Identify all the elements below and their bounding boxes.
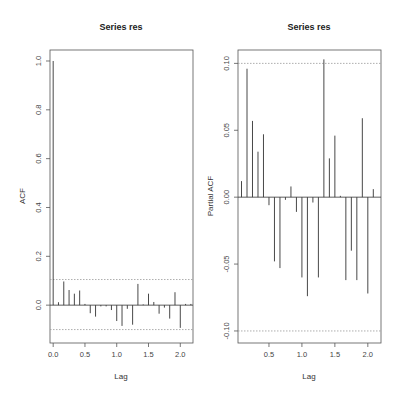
y-tick-label: 0.4 xyxy=(34,202,43,212)
plot-svg: Series res 0.00.20.40.60.81.0 0.00.51.01… xyxy=(0,0,402,404)
x-tick-label: 1.0 xyxy=(112,350,122,359)
acf-y-axis: 0.00.20.40.60.81.0 xyxy=(34,56,50,311)
pacf-ylabel: Partial ACF xyxy=(206,176,215,217)
y-tick-label: 0.00 xyxy=(222,190,231,205)
acf-pacf-figure: Series res 0.00.20.40.60.81.0 0.00.51.01… xyxy=(0,0,402,404)
pacf-x-axis: 0.51.01.52.0 xyxy=(264,343,373,359)
acf-frame xyxy=(50,50,193,343)
x-tick-label: 0.5 xyxy=(80,350,90,359)
acf-x-axis: 0.00.51.01.52.0 xyxy=(48,343,186,359)
pacf-xlabel: Lag xyxy=(302,372,315,381)
y-tick-label: 0.6 xyxy=(34,153,43,163)
y-tick-label: 1.0 xyxy=(34,56,43,66)
x-tick-label: 1.0 xyxy=(297,350,307,359)
pacf-panel: Series res -0.10-0.050.000.050.10 0.51.0… xyxy=(206,22,381,381)
y-tick-label: -0.05 xyxy=(222,256,231,273)
y-tick-label: 0.10 xyxy=(222,56,231,71)
y-tick-label: 0.0 xyxy=(34,300,43,310)
x-tick-label: 2.0 xyxy=(363,350,373,359)
acf-ylabel: ACF xyxy=(18,188,27,204)
acf-panel: Series res 0.00.20.40.60.81.0 0.00.51.01… xyxy=(18,22,193,381)
x-tick-label: 1.5 xyxy=(330,350,340,359)
x-tick-label: 0.5 xyxy=(264,350,274,359)
y-tick-label: -0.10 xyxy=(222,322,231,339)
pacf-frame xyxy=(238,50,381,343)
pacf-y-axis: -0.10-0.050.000.050.10 xyxy=(222,56,238,339)
acf-xlabel: Lag xyxy=(114,372,127,381)
y-tick-label: 0.2 xyxy=(34,251,43,261)
y-tick-label: 0.8 xyxy=(34,105,43,115)
y-tick-label: 0.05 xyxy=(222,123,231,138)
x-tick-label: 2.0 xyxy=(175,350,185,359)
pacf-title: Series res xyxy=(287,22,330,32)
acf-stems xyxy=(53,61,191,328)
acf-title: Series res xyxy=(99,22,142,32)
pacf-stems xyxy=(242,59,374,296)
x-tick-label: 0.0 xyxy=(48,350,58,359)
x-tick-label: 1.5 xyxy=(143,350,153,359)
